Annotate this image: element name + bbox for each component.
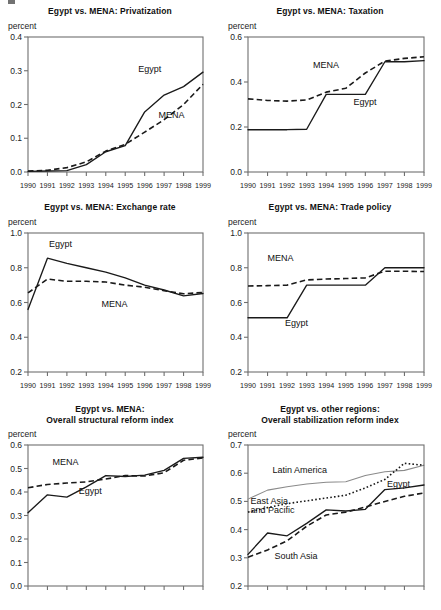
y-tick-label: 0.1 bbox=[10, 133, 22, 143]
plot-area-taxation: 0.00.20.40.61990199119921993199419951996… bbox=[220, 32, 441, 200]
y-tick-label: 0.2 bbox=[230, 122, 242, 132]
x-tick-label: 1998 bbox=[176, 381, 192, 390]
x-tick-label: 1995 bbox=[117, 381, 133, 390]
chart-title-stabilization-reform-index: Egypt vs. other regions: Overall stabili… bbox=[220, 404, 440, 426]
plot-area-stabilization-reform-index: 0.20.30.40.50.60.7Latin AmericaEast Asia… bbox=[220, 440, 441, 610]
y-tick-label: 0.6 bbox=[10, 440, 22, 450]
x-tick-label: 1998 bbox=[396, 181, 412, 190]
x-tick-label: 1996 bbox=[137, 381, 153, 390]
figure-sheet: Egypt vs. MENA: Privatization percent 0.… bbox=[0, 0, 441, 610]
series-label-mena: MENA bbox=[313, 60, 339, 70]
series-label-egypt: Egypt bbox=[387, 479, 411, 489]
x-tick-label: 1992 bbox=[279, 181, 295, 190]
y-tick-label: 0.4 bbox=[230, 525, 242, 535]
x-tick-label: 1994 bbox=[98, 181, 114, 190]
y-axis-unit-taxation: percent bbox=[228, 21, 256, 31]
y-axis-unit-exchange-rate: percent bbox=[8, 217, 36, 227]
chart-panel-exchange-rate: Egypt vs. MENA: Exchange rate percent 0.… bbox=[0, 196, 220, 401]
chart-title-line-1: Egypt vs. other regions: bbox=[220, 404, 440, 415]
x-tick-label: 1999 bbox=[416, 381, 432, 390]
series-line-egypt bbox=[28, 72, 203, 171]
chart-title-structural-reform-index: Egypt vs. MENA: Overall structural refor… bbox=[0, 404, 220, 426]
chart-title-privatization: Egypt vs. MENA: Privatization bbox=[0, 6, 220, 17]
x-tick-label: 1998 bbox=[176, 181, 192, 190]
y-tick-label: 0.2 bbox=[10, 367, 22, 377]
chart-title-line-2: Overall structural reform index bbox=[0, 415, 220, 426]
series-label-egypt: Egypt bbox=[354, 97, 378, 107]
y-tick-label: 1.0 bbox=[10, 228, 22, 238]
plot-area-trade-policy: 0.20.40.60.81.01990199119921993199419951… bbox=[220, 228, 441, 396]
y-tick-label: 0.5 bbox=[230, 496, 242, 506]
y-tick-label: 0.2 bbox=[230, 367, 242, 377]
chart-title-line-2: Overall stabilization reform index bbox=[220, 415, 440, 426]
plot-frame bbox=[248, 37, 424, 172]
x-tick-label: 1990 bbox=[240, 381, 256, 390]
x-tick-label: 1995 bbox=[338, 181, 354, 190]
x-tick-label: 1993 bbox=[78, 381, 94, 390]
y-tick-label: 0.3 bbox=[10, 66, 22, 76]
x-tick-label: 1995 bbox=[117, 181, 133, 190]
x-tick-label: 1997 bbox=[156, 181, 172, 190]
y-axis-unit-privatization: percent bbox=[8, 21, 36, 31]
series-label-south-asia: South Asia bbox=[274, 551, 317, 561]
plot-area-structural-reform-index: 0.00.10.20.30.40.50.6MENAEgypt bbox=[0, 440, 220, 610]
y-tick-label: 0.6 bbox=[230, 32, 242, 42]
y-tick-label: 0.8 bbox=[230, 263, 242, 273]
x-tick-label: 1990 bbox=[20, 381, 36, 390]
series-label-egypt: Egypt bbox=[138, 64, 162, 74]
y-tick-label: 0.7 bbox=[230, 440, 242, 450]
x-tick-label: 1993 bbox=[78, 181, 94, 190]
y-tick-label: 0.4 bbox=[10, 32, 22, 42]
y-tick-label: 0.6 bbox=[230, 298, 242, 308]
series-label-east-asia: East Asia bbox=[251, 496, 289, 506]
chart-title-line-1: Egypt vs. MENA: bbox=[0, 404, 220, 415]
series-label-mena: MENA bbox=[102, 299, 128, 309]
x-tick-label: 1992 bbox=[279, 381, 295, 390]
chart-panel-stabilization-reform-index: Egypt vs. other regions: Overall stabili… bbox=[220, 400, 440, 605]
y-tick-label: 0.2 bbox=[10, 534, 22, 544]
series-label-mena: MENA bbox=[267, 253, 293, 263]
series-line-egypt bbox=[248, 61, 424, 130]
y-tick-label: 0.2 bbox=[10, 100, 22, 110]
x-tick-label: 1994 bbox=[98, 381, 114, 390]
x-tick-label: 1997 bbox=[377, 381, 393, 390]
series-label-and-pacific: and Pacific bbox=[251, 505, 296, 515]
x-tick-label: 1997 bbox=[377, 181, 393, 190]
series-line-mena bbox=[248, 271, 424, 286]
y-tick-label: 0.0 bbox=[230, 167, 242, 177]
y-tick-label: 0.4 bbox=[10, 332, 22, 342]
y-tick-label: 0.0 bbox=[10, 167, 22, 177]
chart-title-trade-policy: Egypt vs. MENA: Trade policy bbox=[220, 202, 440, 213]
x-tick-label: 1993 bbox=[299, 181, 315, 190]
x-tick-label: 1998 bbox=[396, 381, 412, 390]
plot-area-exchange-rate: 0.20.40.60.81.01990199119921993199419951… bbox=[0, 228, 220, 396]
x-tick-label: 1993 bbox=[299, 381, 315, 390]
x-tick-label: 1991 bbox=[39, 381, 55, 390]
series-line-mena bbox=[28, 279, 203, 294]
y-tick-label: 0.6 bbox=[10, 298, 22, 308]
x-tick-label: 1999 bbox=[195, 181, 211, 190]
y-tick-label: 0.4 bbox=[10, 487, 22, 497]
chart-panel-privatization: Egypt vs. MENA: Privatization percent 0.… bbox=[0, 0, 220, 205]
chart-panel-structural-reform-index: Egypt vs. MENA: Overall structural refor… bbox=[0, 400, 220, 605]
x-tick-label: 1996 bbox=[357, 381, 373, 390]
y-axis-unit-structural-reform-index: percent bbox=[8, 429, 36, 439]
y-tick-label: 0.0 bbox=[10, 581, 22, 591]
series-label-latin-america: Latin America bbox=[273, 465, 328, 475]
x-tick-label: 1995 bbox=[338, 381, 354, 390]
y-tick-label: 0.1 bbox=[10, 558, 22, 568]
y-tick-label: 0.3 bbox=[230, 553, 242, 563]
y-tick-label: 0.4 bbox=[230, 77, 242, 87]
y-axis-unit-trade-policy: percent bbox=[228, 217, 256, 227]
series-label-egypt: Egypt bbox=[79, 486, 103, 496]
y-tick-label: 0.4 bbox=[230, 332, 242, 342]
y-tick-label: 0.5 bbox=[10, 464, 22, 474]
x-tick-label: 1990 bbox=[20, 181, 36, 190]
x-tick-label: 1996 bbox=[137, 181, 153, 190]
series-label-mena: MENA bbox=[158, 110, 184, 120]
x-tick-label: 1994 bbox=[318, 181, 334, 190]
x-tick-label: 1992 bbox=[59, 381, 75, 390]
series-label-egypt: Egypt bbox=[49, 239, 73, 249]
x-tick-label: 1994 bbox=[318, 381, 334, 390]
y-tick-label: 0.2 bbox=[230, 581, 242, 591]
